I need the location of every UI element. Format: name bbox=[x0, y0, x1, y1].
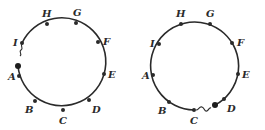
left-label-f: F bbox=[102, 36, 111, 47]
right-node-d bbox=[222, 97, 226, 101]
right-label-b: B bbox=[157, 105, 166, 116]
right-label-f: F bbox=[236, 37, 245, 48]
right-ring-arc bbox=[151, 22, 239, 110]
right-node-b bbox=[167, 100, 171, 104]
right-label-i: I bbox=[149, 38, 155, 49]
left-node-d bbox=[87, 98, 91, 102]
left-label-b: B bbox=[24, 104, 33, 115]
right-label-e: E bbox=[241, 69, 250, 80]
right-label-c: C bbox=[190, 115, 198, 126]
right-node-c bbox=[192, 108, 196, 112]
right-node-h bbox=[179, 22, 183, 26]
right-label-d: D bbox=[226, 103, 236, 114]
left-break-dot bbox=[15, 63, 21, 69]
right-node-i bbox=[157, 42, 161, 46]
left-ring: H G F E D C B A I bbox=[7, 7, 116, 126]
left-node-a bbox=[17, 74, 21, 78]
right-ring: H G F E D C B A I bbox=[141, 8, 250, 126]
left-node-i bbox=[20, 41, 24, 45]
left-node-b bbox=[33, 99, 37, 103]
right-break-dot bbox=[212, 102, 218, 108]
left-ring-arc bbox=[18, 18, 106, 106]
left-node-h bbox=[45, 22, 49, 26]
left-node-c bbox=[61, 108, 65, 112]
left-label-a: A bbox=[7, 71, 16, 82]
right-node-a bbox=[151, 73, 155, 77]
left-node-g bbox=[74, 21, 78, 25]
right-node-f bbox=[230, 41, 234, 45]
left-label-c: C bbox=[59, 115, 67, 126]
left-label-e: E bbox=[107, 69, 116, 80]
left-label-g: G bbox=[73, 7, 82, 18]
right-label-h: H bbox=[175, 8, 186, 19]
left-label-d: D bbox=[91, 104, 101, 115]
left-node-f bbox=[96, 40, 100, 44]
right-label-a: A bbox=[141, 70, 150, 81]
right-label-g: G bbox=[206, 8, 215, 19]
right-node-e bbox=[236, 72, 240, 76]
left-break-wiggle bbox=[20, 44, 22, 56]
left-label-i: I bbox=[12, 37, 18, 48]
right-break-wiggle bbox=[196, 107, 211, 111]
left-node-e bbox=[102, 72, 106, 76]
left-label-h: H bbox=[41, 8, 52, 19]
diagram-canvas: H G F E D C B A I H G F E D C B A I bbox=[0, 0, 265, 130]
right-node-g bbox=[208, 22, 212, 26]
